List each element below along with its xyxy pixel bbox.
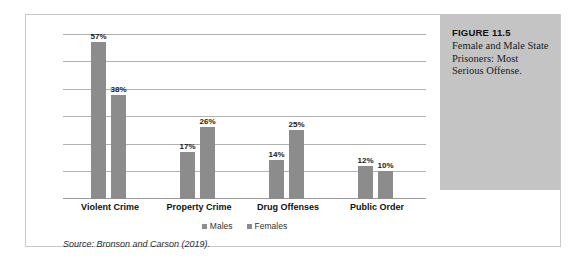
bar-label-property-males: 17% bbox=[179, 142, 195, 151]
figure-caption-title: FIGURE 11.5 bbox=[452, 27, 550, 39]
bar-label-property-females: 26% bbox=[199, 117, 215, 126]
legend-item-females[interactable]: Females bbox=[247, 221, 288, 231]
figure-caption-text: Female and Male State Prisoners: Most Se… bbox=[452, 40, 550, 78]
bar-drug-males[interactable] bbox=[269, 160, 284, 199]
legend-label-males: Males bbox=[210, 221, 233, 231]
legend-item-males[interactable]: Males bbox=[202, 221, 233, 231]
bar-label-drug-females: 25% bbox=[288, 120, 304, 129]
figure-caption-box: FIGURE 11.5 Female and Male State Prison… bbox=[440, 14, 560, 190]
category-label-drug-offenses: Drug Offenses bbox=[257, 202, 319, 212]
bar-label-violent-males: 57% bbox=[90, 32, 106, 41]
chart-plot-area: 57% 38% 17% 26% bbox=[63, 34, 426, 199]
bar-label-violent-females: 38% bbox=[110, 85, 126, 94]
category-label-property-crime: Property Crime bbox=[166, 202, 231, 212]
bar-group-property-crime: 17% 26% bbox=[180, 34, 218, 199]
source-note: Source: Bronson and Carson (2019). bbox=[63, 239, 210, 249]
legend-label-females: Females bbox=[255, 221, 288, 231]
bar-group-violent-crime: 57% 38% bbox=[91, 34, 129, 199]
square-marker-icon-males bbox=[202, 224, 207, 229]
figure-container: 57% 38% 17% 26% bbox=[0, 0, 572, 262]
bar-violent-males[interactable] bbox=[91, 42, 106, 199]
bar-label-public-males: 12% bbox=[357, 156, 373, 165]
bar-group-drug-offenses: 14% 25% bbox=[269, 34, 307, 199]
category-axis-labels: Violent Crime Property Crime Drug Offens… bbox=[63, 202, 426, 216]
bar-group-public-order: 12% 10% bbox=[358, 34, 396, 199]
category-label-public-order: Public Order bbox=[350, 202, 404, 212]
bar-public-males[interactable] bbox=[358, 166, 373, 199]
bar-public-females[interactable] bbox=[378, 171, 393, 199]
bar-drug-females[interactable] bbox=[289, 130, 304, 199]
bar-label-drug-males: 14% bbox=[268, 150, 284, 159]
bar-property-males[interactable] bbox=[180, 152, 195, 199]
bar-violent-females[interactable] bbox=[111, 95, 126, 199]
category-label-violent-crime: Violent Crime bbox=[81, 202, 139, 212]
chart-legend: Males Females bbox=[63, 220, 426, 232]
bar-property-females[interactable] bbox=[200, 127, 215, 199]
square-marker-icon-females bbox=[247, 224, 252, 229]
bar-label-public-females: 10% bbox=[377, 161, 393, 170]
bars-group: 57% 38% 17% 26% bbox=[63, 34, 426, 199]
